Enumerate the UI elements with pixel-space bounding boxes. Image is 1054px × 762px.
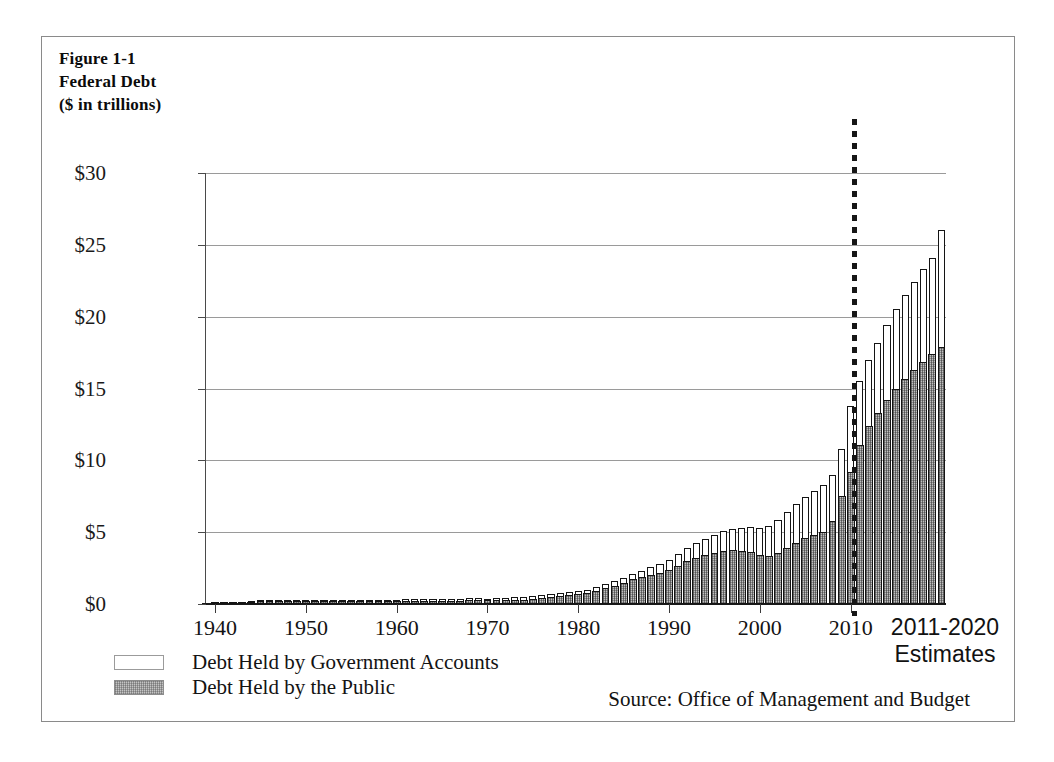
x-tick-label-1950: 1950 <box>284 615 328 641</box>
bar-public-segment-1999 <box>747 552 755 604</box>
bar-1992 <box>684 548 691 604</box>
source-note: Source: Office of Management and Budget <box>608 687 970 712</box>
bar-public-segment-2001 <box>765 556 773 604</box>
y-tick-25 <box>198 245 206 246</box>
bar-1996 <box>720 531 727 604</box>
legend-item-government-accounts: Debt Held by Government Accounts <box>114 650 614 675</box>
projection-range: 2011-2020 <box>865 614 1025 641</box>
bar-public-segment-1997 <box>729 550 737 604</box>
bar-public-segment-2019 <box>928 354 936 604</box>
bar-public-segment-1989 <box>656 573 664 604</box>
bar-1987 <box>638 571 645 604</box>
projection-region-label: 2011-2020 Estimates <box>865 614 1025 668</box>
x-tick-2000 <box>760 604 761 613</box>
y-tick-15 <box>198 389 206 390</box>
bar-public-segment-2006 <box>810 535 818 604</box>
x-tick-1950 <box>306 604 307 613</box>
bar-1973 <box>511 597 518 604</box>
bar-1991 <box>675 554 682 604</box>
bar-public-segment-1994 <box>701 555 709 604</box>
bar-1983 <box>602 584 609 604</box>
bar-1981 <box>584 590 591 604</box>
bar-2013 <box>874 343 881 604</box>
bar-1985 <box>620 578 627 604</box>
bar-1989 <box>656 564 663 604</box>
bar-public-segment-1993 <box>692 558 700 605</box>
bar-1978 <box>557 593 564 604</box>
bar-2015 <box>893 309 900 604</box>
figure-title: Federal Debt <box>59 70 161 93</box>
y-tick-label-15: $15 <box>75 376 107 401</box>
bar-2020 <box>938 230 945 604</box>
bar-public-segment-1995 <box>711 553 719 605</box>
bar-2001 <box>765 526 772 604</box>
bar-1977 <box>547 594 554 604</box>
y-tick-5 <box>198 532 206 533</box>
bar-1993 <box>693 543 700 604</box>
bar-public-segment-1988 <box>647 575 655 604</box>
bar-public-segment-1982 <box>592 591 600 604</box>
x-tick-1940 <box>215 604 216 613</box>
bar-1974 <box>520 597 527 604</box>
bar-2016 <box>902 295 909 604</box>
x-tick-label-1990: 1990 <box>647 615 691 641</box>
bar-public-segment-2012 <box>865 426 873 604</box>
x-tick-2010 <box>851 604 852 613</box>
bar-1975 <box>529 596 536 604</box>
x-tick-1980 <box>578 604 579 613</box>
bar-public-segment-1985 <box>620 583 628 605</box>
bar-1990 <box>666 560 673 604</box>
bar-public-segment-1998 <box>738 551 746 604</box>
bar-1986 <box>629 574 636 604</box>
legend-swatch-government-accounts <box>114 655 164 670</box>
bar-public-segment-1992 <box>683 561 691 604</box>
bar-public-segment-1987 <box>638 577 646 604</box>
bar-2011 <box>856 381 863 604</box>
bar-1988 <box>647 567 654 604</box>
y-tick-label-5: $5 <box>85 520 106 545</box>
y-tick-30 <box>198 173 206 174</box>
y-tick-label-30: $30 <box>75 161 107 186</box>
bar-1980 <box>575 591 582 604</box>
bar-public-segment-1979 <box>565 595 573 604</box>
figure-label: Figure 1-1 <box>59 47 161 70</box>
bar-public-segment-1983 <box>602 588 610 604</box>
bar-public-segment-1984 <box>611 586 619 605</box>
y-tick-10 <box>198 460 206 461</box>
y-tick-20 <box>198 317 206 318</box>
bar-public-segment-2020 <box>938 347 946 604</box>
bar-1999 <box>747 527 754 604</box>
bar-public-segment-2005 <box>801 538 809 604</box>
y-tick-0 <box>198 604 206 605</box>
x-axis-ticks <box>206 604 946 614</box>
y-axis-labels: $0$5$10$15$20$25$30 <box>20 173 106 604</box>
bar-1982 <box>593 587 600 604</box>
bar-public-segment-2013 <box>874 413 882 604</box>
bar-public-segment-2000 <box>756 555 764 604</box>
projection-estimates-word: Estimates <box>865 641 1025 668</box>
legend-label-government-accounts: Debt Held by Government Accounts <box>192 650 499 675</box>
x-tick-1990 <box>669 604 670 613</box>
bar-2003 <box>784 512 791 604</box>
y-tick-label-10: $10 <box>75 448 107 473</box>
bar-2000 <box>756 528 763 604</box>
x-tick-1970 <box>487 604 488 613</box>
bar-public-segment-2015 <box>892 389 900 605</box>
bar-2012 <box>865 360 872 604</box>
bar-2004 <box>793 504 800 604</box>
bar-2005 <box>802 497 809 604</box>
bar-public-segment-2009 <box>838 496 846 604</box>
bar-public-segment-1981 <box>583 593 591 604</box>
bar-public-segment-2002 <box>774 553 782 604</box>
bar-1998 <box>738 528 745 604</box>
bar-public-segment-1996 <box>720 551 728 605</box>
bar-public-segment-1990 <box>665 570 673 605</box>
x-tick-label-1960: 1960 <box>375 615 419 641</box>
bar-public-segment-2007 <box>819 532 827 604</box>
figure-title-block: Figure 1-1 Federal Debt ($ in trillions) <box>59 47 161 116</box>
y-tick-label-20: $20 <box>75 304 107 329</box>
bar-1995 <box>711 535 718 604</box>
bar-2009 <box>838 449 845 604</box>
bar-2007 <box>820 485 827 604</box>
bar-1979 <box>566 592 573 604</box>
